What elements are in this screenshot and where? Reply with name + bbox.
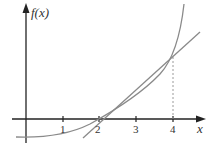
- curve-f: [16, 4, 184, 137]
- tick-label-2: 2: [95, 123, 101, 135]
- tick-label-3: 3: [133, 123, 139, 135]
- tick-label-1: 1: [60, 123, 66, 135]
- x-axis-label: x: [196, 121, 203, 136]
- tick-label-4: 4: [170, 123, 176, 135]
- secant-line: [83, 32, 200, 138]
- function-graph: f(x) x 1 2 3 4: [0, 0, 213, 148]
- y-axis-label: f(x): [31, 5, 49, 20]
- plot-area: f(x) x 1 2 3 4: [0, 0, 213, 148]
- y-axis-arrow-icon: [23, 3, 30, 13]
